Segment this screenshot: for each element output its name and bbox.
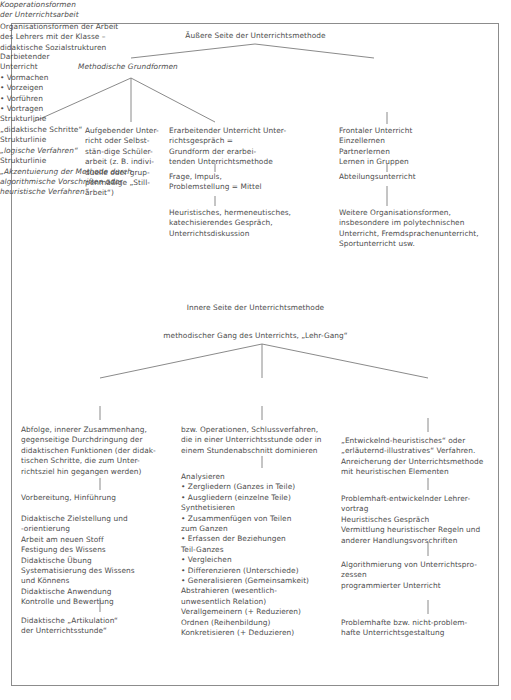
column1-heading: Strukturlinie „didaktische Schritte“ [0, 114, 150, 135]
column3-block-algorithmierung: Algorithmierung von Unterrichtspro- zess… [341, 560, 501, 591]
branch-kooperationsformen-body: Organisationsformen der Arbeit des Lehre… [0, 22, 162, 53]
node-weitere-organisationsformen: Weitere Organisationsformen, insbesonder… [339, 208, 499, 250]
inner-side-subtitle: methodischer Gang des Unterrichts, „Lehr… [0, 331, 511, 341]
leaf-darbietender-items: • Vormachen • Vorzeigen • Vorführen • Vo… [0, 73, 62, 115]
node-frontaler-unterricht-liste: Frontaler Unterricht Einzellernen Partne… [339, 126, 499, 168]
column3-block-lehrervortrag: Problemhaft-entwickelnder Lehrer- vortra… [341, 494, 501, 546]
column3-heading: Strukturlinie „Akzentuierung der Methode… [0, 156, 160, 198]
node-frage-impuls-problemstellung: Frage, Impuls, Problemstellung = Mittel [169, 172, 309, 193]
column3-block-entwickelnd-heuristisches: „Entwickelnd-heuristisches“ oder „erläut… [341, 436, 501, 478]
branch-methodische-grundformen-heading: Methodische Grundformen [78, 62, 258, 72]
branch-kooperationsformen-heading: Kooperationsformen der Unterrichtsarbeit [0, 0, 162, 21]
leaf-erarbeitender-unterricht: Erarbeitender Unterricht Unter- richtsge… [169, 126, 299, 168]
column1-heading-quoted: „didaktische Schritte“ [0, 125, 150, 135]
diagram-root: Äußere Seite der Unterrichtsmethode Meth… [0, 0, 511, 700]
leaf-darbietender-unterricht: Darbietender Unterricht • Vormachen • Vo… [0, 52, 62, 114]
column1-heading-plain: Strukturlinie [0, 114, 150, 124]
column2-heading-quoted: „logische Verfahren“ [0, 146, 150, 156]
column2-heading: Strukturlinie „logische Verfahren“ [0, 135, 150, 156]
column1-block-vorbereitung: Vorbereitung, Hinführung [21, 493, 176, 503]
column1-block-abfolge: Abfolge, innerer Zusammenhang, gegenseit… [21, 425, 176, 477]
column3-block-problemhafte-gestaltung: Problemhafte bzw. nicht-problem- hafte U… [341, 618, 501, 639]
column2-block-operationen: bzw. Operationen, Schlussverfahren, die … [181, 425, 339, 456]
inner-side-title: Innere Seite der Unterrichtsmethode [0, 303, 511, 313]
branch-kooperationsformen: Kooperationsformen der Unterrichtsarbeit… [0, 0, 162, 52]
column1-block-artikulation: Didaktische „Artikulation“ der Unterrich… [21, 616, 176, 637]
leaf-darbietender-title: Darbietender Unterricht [0, 52, 62, 73]
column1-block-didaktische-schritte-liste: Didaktische Zielstellung und -orientieru… [21, 514, 176, 608]
node-heuristisches-gespraech: Heuristisches, hermeneutisches, katechis… [169, 208, 319, 239]
node-abteilungsunterricht: Abteilungsunterricht [339, 172, 499, 182]
column2-block-analysieren-liste: Analysieren • Zergliedern (Ganzes in Tei… [181, 472, 339, 639]
column3-heading-quoted: „Akzentuierung der Methode durch algorit… [0, 167, 160, 198]
column2-heading-plain: Strukturlinie [0, 135, 150, 145]
column3-heading-plain: Strukturlinie [0, 156, 160, 166]
